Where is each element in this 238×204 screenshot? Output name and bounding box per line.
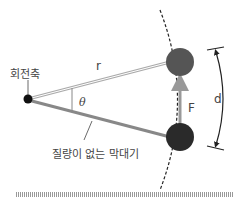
rotation-diagram: 회전축 r θ F d 질량이 없는 막대기 <box>0 0 238 204</box>
angle-label: θ <box>79 96 86 109</box>
force-label: F <box>188 101 195 115</box>
radius-label: r <box>96 59 101 73</box>
mass-top <box>166 48 194 76</box>
rotation-arc <box>160 10 178 190</box>
distance-label: d <box>214 92 222 106</box>
rod-pointer <box>84 121 92 140</box>
pivot-label: 회전축 <box>10 68 40 81</box>
pivot-point <box>24 95 33 104</box>
mass-bottom <box>166 123 194 151</box>
baseline-hatch <box>15 192 233 197</box>
rod-label: 질량이 없는 막대기 <box>52 148 139 161</box>
lower-rod <box>28 100 170 137</box>
